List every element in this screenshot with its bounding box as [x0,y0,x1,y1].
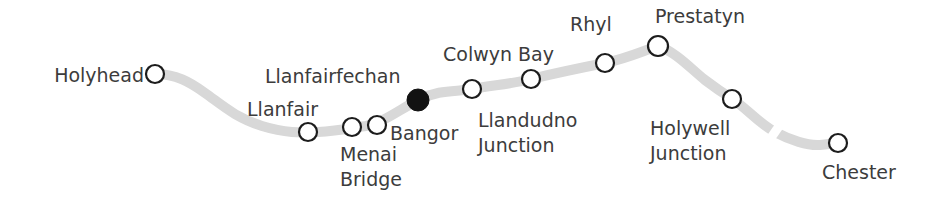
station-label-llanfair: Llanfair [247,97,318,122]
station-marker-llanfair[interactable] [299,123,317,141]
station-marker-llanfairfechan[interactable] [368,116,386,134]
station-marker-holyhead[interactable] [146,65,164,83]
station-marker-rhyl[interactable] [596,54,614,72]
station-label-prestatyn: Prestatyn [655,4,745,29]
station-marker-colwyn-bay[interactable] [522,70,540,88]
station-label-llanfairfechan: Llanfairfechan [265,64,401,89]
station-label-colwyn-bay: Colwyn Bay [443,42,554,67]
station-label-bangor: Bangor [390,121,458,146]
station-marker-chester[interactable] [829,134,847,152]
station-label-holywell-junction: Holywell Junction [650,116,730,166]
station-marker-holywell-junction[interactable] [723,90,741,108]
station-marker-bangor[interactable] [407,89,429,111]
railway-track-svg [0,0,952,198]
station-label-chester: Chester [822,160,896,185]
station-label-menai-bridge: Menai Bridge [340,142,402,192]
station-label-rhyl: Rhyl [570,12,612,37]
station-label-llandudno-junction: Llandudno Junction [478,108,577,158]
station-marker-prestatyn[interactable] [648,36,668,56]
station-marker-llandudno-junction[interactable] [463,80,481,98]
station-label-holyhead: Holyhead [54,63,144,88]
railway-line-diagram: HolyheadLlanfairMenai BridgeLlanfairfech… [0,0,952,198]
station-marker-menai-bridge[interactable] [343,118,361,136]
